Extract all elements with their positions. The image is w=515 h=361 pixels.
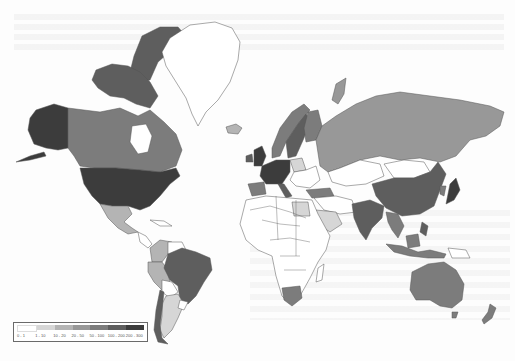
legend-label: 20 - 50 — [71, 333, 89, 338]
legend-label: 10 - 20 — [53, 333, 71, 338]
region-cuba — [150, 220, 172, 226]
legend-swatch-1 — [37, 325, 55, 330]
legend-swatch-2 — [55, 325, 73, 330]
region-philippines — [420, 222, 428, 236]
region-alaska-chain — [16, 152, 46, 162]
region-india — [352, 200, 384, 240]
region-new-guinea — [448, 248, 470, 258]
region-usa — [80, 168, 180, 210]
legend-swatches — [17, 325, 144, 330]
map-page: 0 - 1 1 - 10 10 - 20 20 - 50 50 - 100 10… — [0, 0, 515, 361]
region-italy — [278, 184, 292, 198]
region-poland — [290, 158, 306, 172]
region-russia — [316, 92, 504, 172]
region-uruguay — [178, 300, 188, 310]
region-spain — [248, 182, 266, 196]
region-australia — [410, 262, 464, 308]
legend-label: 100 - 200 — [108, 333, 126, 338]
region-korea — [440, 186, 446, 196]
legend-label: 0 - 1 — [17, 333, 35, 338]
legend-swatch-6 — [126, 325, 144, 330]
legend-label: 50 - 100 — [90, 333, 108, 338]
region-central-america — [138, 232, 152, 248]
map-legend: 0 - 1 1 - 10 10 - 20 20 - 50 50 - 100 10… — [13, 322, 148, 342]
region-uk — [254, 146, 266, 166]
region-greenland — [162, 22, 240, 126]
region-alaska — [28, 104, 68, 150]
legend-swatch-3 — [73, 325, 91, 330]
region-new-zealand — [482, 304, 496, 324]
region-borneo — [406, 234, 420, 248]
region-western-europe — [260, 160, 290, 184]
region-south-africa — [282, 286, 302, 306]
region-japan — [446, 178, 460, 204]
region-madagascar — [316, 264, 324, 282]
region-ireland — [246, 154, 253, 162]
region-tasmania — [452, 312, 458, 318]
legend-label: 200 - 300 — [126, 333, 144, 338]
legend-swatch-4 — [90, 325, 108, 330]
world-map — [0, 0, 515, 361]
legend-label: 1 - 10 — [35, 333, 53, 338]
region-canada — [68, 108, 182, 172]
region-iceland — [226, 124, 242, 134]
region-mexico — [100, 204, 138, 234]
legend-swatch-5 — [108, 325, 126, 330]
legend-swatch-0 — [17, 325, 37, 332]
legend-labels: 0 - 1 1 - 10 10 - 20 20 - 50 50 - 100 10… — [17, 333, 144, 338]
region-novaya-zemlya — [332, 78, 346, 104]
